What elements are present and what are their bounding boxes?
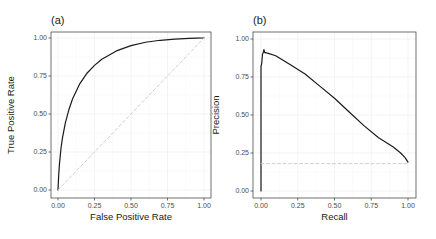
y-tick-label: 1.00 xyxy=(33,34,47,41)
chart-panel-roc: 0.000.250.500.751.000.000.250.500.751.00… xyxy=(5,14,211,222)
y-tick-label: 0.00 xyxy=(235,187,249,194)
y-tick-label: 0.75 xyxy=(235,73,249,80)
x-tick-label: 0.75 xyxy=(364,202,378,209)
x-tick-label: 0.25 xyxy=(88,202,102,209)
x-axis-title: False Positive Rate xyxy=(90,211,172,222)
y-tick-label: 0.75 xyxy=(33,72,47,79)
x-tick-label: 0.00 xyxy=(51,202,65,209)
x-tick-label: 0.50 xyxy=(124,202,138,209)
chart-panel-pr: 0.000.250.500.751.000.000.250.500.751.00… xyxy=(210,14,416,222)
y-tick-label: 1.00 xyxy=(235,35,249,42)
x-tick-label: 1.00 xyxy=(197,202,211,209)
figure: 0.000.250.500.751.000.000.250.500.751.00… xyxy=(0,0,436,239)
panel-label: (a) xyxy=(51,14,64,26)
y-tick-label: 0.50 xyxy=(235,111,249,118)
y-tick-label: 0.25 xyxy=(235,149,249,156)
x-axis-title: Recall xyxy=(321,211,347,222)
x-tick-label: 1.00 xyxy=(401,202,415,209)
panel-label: (b) xyxy=(253,14,266,26)
y-tick-label: 0.25 xyxy=(33,148,47,155)
x-tick-label: 0.25 xyxy=(291,202,305,209)
y-tick-label: 0.00 xyxy=(33,186,47,193)
x-tick-label: 0.00 xyxy=(254,202,268,209)
x-tick-label: 0.50 xyxy=(328,202,342,209)
y-axis-title: Precision xyxy=(210,95,221,134)
x-tick-label: 0.75 xyxy=(161,202,175,209)
y-tick-label: 0.50 xyxy=(33,110,47,117)
y-axis-title: True Positive Rate xyxy=(5,76,16,154)
